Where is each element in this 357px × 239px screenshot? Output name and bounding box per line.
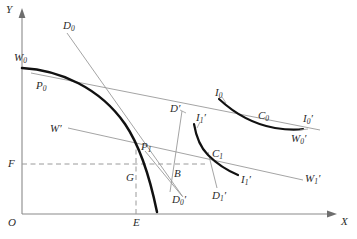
point-label-P1: P1 [141,141,151,152]
line-label-D0-prime: D0′ [172,194,186,205]
heavy-curves-group [22,68,303,212]
terms-of-trade-line-W1 [68,128,303,180]
line-label-W1-prime: W1′ [305,173,320,184]
line-label-W-prime: W′ [50,123,62,134]
axis-mark-F: F [8,158,15,169]
line-label-W0-prime: W0′ [291,133,306,144]
price-line-D0 [67,33,183,197]
origin-label: O [8,217,16,228]
x-axis-label: X [341,216,348,227]
line-label-D-prime: D′ [170,103,180,114]
x-axis-arrow [327,211,337,218]
curve-label-I0: I0 [215,87,222,98]
point-label-P0: P0 [36,80,46,91]
y-axis-arrow [19,8,26,18]
line-label-D0: D0 [63,20,75,31]
axis-mark-E: E [133,217,140,228]
y-axis-label: Y [6,4,12,15]
curve-label-I1-prime-top: I1′ [196,112,206,123]
point-label-B: B [174,168,181,179]
economics-diagram: Y X O W0 P0 D0 W′ F G E P1 B D′ I1′ I0 C… [0,0,357,239]
point-label-G: G [126,172,134,183]
curve-label-I0-prime: I0′ [303,113,313,124]
curve-label-I1-prime-bottom: I1′ [241,174,251,185]
curve-label-C0: C0 [258,110,269,121]
point-label-W0: W0 [14,52,27,63]
line-label-D1-prime: D1′ [212,190,226,201]
point-label-C1: C1 [212,148,223,159]
leader-d-prime [180,110,186,113]
price-line-D0-prime [170,111,182,192]
